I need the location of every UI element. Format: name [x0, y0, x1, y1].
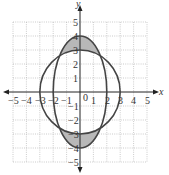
y-tick: −5 — [68, 157, 79, 168]
x-tick: 1 — [91, 95, 96, 106]
x-tick: −3 — [35, 95, 46, 106]
graph-canvas: x y −5 −4 −3 −2 −1 0 1 2 3 4 5 5 4 3 2 1… — [0, 0, 169, 175]
x-tick: −4 — [21, 95, 32, 106]
x-axis-left-arrow-icon — [3, 90, 9, 95]
y-tick: −4 — [68, 143, 79, 154]
y-tick: −3 — [68, 129, 79, 140]
origin-label: 0 — [83, 92, 88, 103]
x-tick: −5 — [8, 95, 19, 106]
x-tick: 4 — [131, 95, 136, 106]
x-tick: 3 — [118, 95, 123, 106]
y-axis-label: y — [75, 0, 81, 9]
y-tick: 2 — [73, 59, 78, 70]
shaded-region — [0, 0, 169, 175]
y-tick: 1 — [73, 73, 78, 84]
y-tick: −2 — [68, 115, 79, 126]
y-tick: −1 — [68, 101, 79, 112]
y-tick: 3 — [73, 45, 78, 56]
y-tick: 5 — [73, 17, 78, 28]
y-tick: 4 — [73, 31, 78, 42]
x-tick: 2 — [105, 95, 110, 106]
x-tick: 5 — [145, 95, 150, 106]
x-tick: −2 — [48, 95, 59, 106]
x-axis-label: x — [158, 86, 164, 97]
